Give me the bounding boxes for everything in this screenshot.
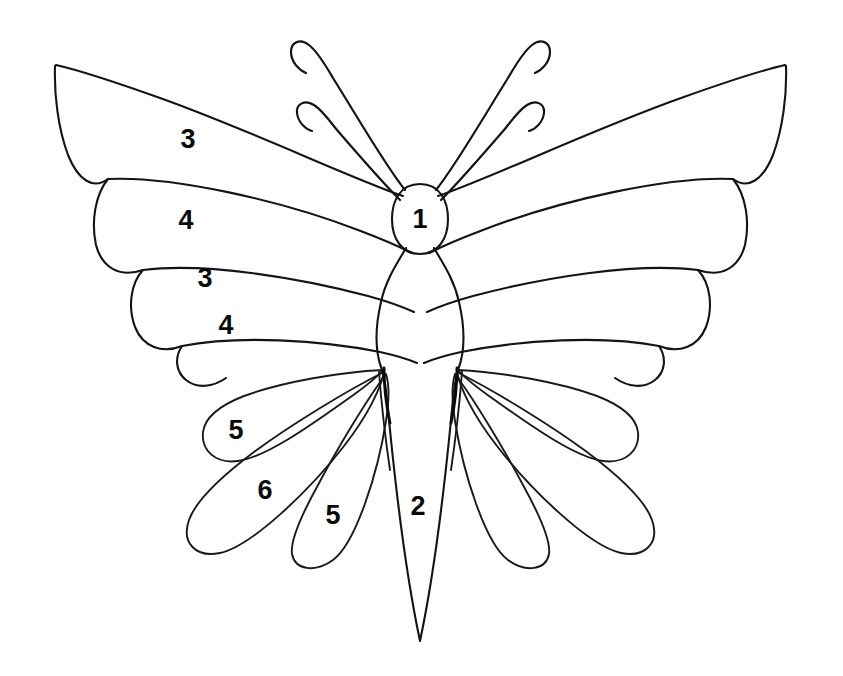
butterfly-figure: 1 2 3 4 3 4 5 6 5 xyxy=(0,0,843,676)
hindwing-right-petal-5b xyxy=(453,374,550,568)
part-label-2: 2 xyxy=(410,491,425,521)
hindwing-left-petal-5b xyxy=(292,374,389,568)
left-hindwing-group xyxy=(187,370,388,568)
forewing-left-segment-3b xyxy=(131,268,414,349)
part-label-4a: 4 xyxy=(178,205,193,235)
part-label-1: 1 xyxy=(412,204,427,234)
part-label-3b: 3 xyxy=(197,263,212,293)
antenna-inner-right xyxy=(441,102,544,200)
antenna-outer-left xyxy=(291,41,405,190)
forewing-left-segment-4b xyxy=(177,340,417,386)
left-forewing-group xyxy=(55,65,417,386)
part-label-3a: 3 xyxy=(180,124,195,154)
hindwing-right-petal-5a xyxy=(458,370,638,461)
forewing-right-segment-4a xyxy=(429,179,747,273)
butterfly-drawing: 1 2 3 4 3 4 5 6 5 xyxy=(0,0,843,676)
forewing-right-segment-3a xyxy=(438,65,786,196)
forewing-left-segment-3a xyxy=(55,65,403,196)
part-label-4b: 4 xyxy=(218,310,233,340)
antenna-outer-right xyxy=(436,41,550,190)
hindwing-left-petal-6 xyxy=(187,372,384,554)
right-forewing-group xyxy=(424,65,786,386)
forewing-left-segment-4a xyxy=(94,179,412,273)
right-hindwing-group xyxy=(453,370,654,568)
antenna-inner-left xyxy=(297,102,400,200)
part-label-5a: 5 xyxy=(228,415,243,445)
thorax-abdomen-outline xyxy=(377,248,464,641)
hindwing-right-petal-6 xyxy=(457,372,654,554)
forewing-right-segment-3b xyxy=(427,268,710,349)
antennae-group xyxy=(291,41,550,200)
part-label-5b: 5 xyxy=(325,500,340,530)
body-group xyxy=(377,184,464,641)
part-label-6: 6 xyxy=(257,475,272,505)
